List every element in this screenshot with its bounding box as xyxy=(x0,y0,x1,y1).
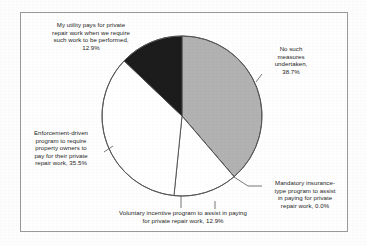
pie-label-no-such-measures: No such measures undertaken, 38.7% xyxy=(258,45,324,75)
pie-label-utility-pays: My utility pays for private repair work … xyxy=(28,21,154,51)
pie-label-mandatory-insurance: Mandatory insurance- type program to ass… xyxy=(264,179,346,209)
leader-line-mandatory-insurance xyxy=(234,177,262,186)
pie-label-enforcement-driven: Enforcement-driven program to require pr… xyxy=(19,129,103,167)
pie-label-voluntary-incentive: Voluntary incentive program to assist in… xyxy=(97,209,269,224)
